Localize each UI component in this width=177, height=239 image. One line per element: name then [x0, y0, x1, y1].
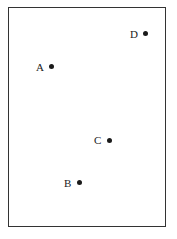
point-a-dot — [49, 64, 54, 69]
point-a-label: A — [36, 61, 44, 73]
point-d-label: D — [130, 28, 138, 40]
diagram-frame — [8, 7, 166, 227]
point-c-dot — [107, 138, 112, 143]
point-b-label: B — [64, 177, 71, 189]
point-d-dot — [143, 31, 148, 36]
point-b-dot — [77, 180, 82, 185]
point-c-label: C — [94, 134, 101, 146]
